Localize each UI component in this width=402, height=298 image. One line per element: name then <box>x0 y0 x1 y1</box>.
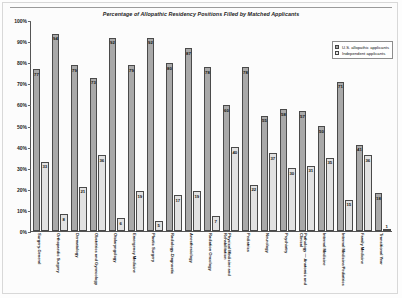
bar-value-label: 78 <box>205 70 210 75</box>
bar-value-label: 33 <box>42 164 47 169</box>
y-tick-label: 40% <box>17 145 27 151</box>
bar-independent: 1 <box>383 229 391 231</box>
bar-us-allopathic: 58 <box>280 109 288 231</box>
bar-us-allopathic: 60 <box>223 105 231 231</box>
y-tick-label: 50% <box>17 124 27 130</box>
y-tick-label: 20% <box>17 187 27 193</box>
bar-us-allopathic: 78 <box>204 67 212 231</box>
category-label: Internal Medicine <box>321 233 325 295</box>
chart-page: Percentage of Allopathic Residency Posit… <box>0 0 402 298</box>
category-label: Neurology <box>264 233 268 295</box>
bar-independent: 22 <box>250 185 258 231</box>
bar-us-allopathic: 94 <box>52 34 60 231</box>
bar-value-label: 60 <box>224 108 229 113</box>
bar-group: 7921 <box>69 21 88 231</box>
bar-group: 7733 <box>31 21 50 231</box>
category-label: Dermatology <box>74 233 78 295</box>
bar-value-label: 87 <box>186 51 191 56</box>
bar-value-label: 57 <box>300 114 305 119</box>
bar-group: 6040 <box>221 21 240 231</box>
legend-label-independent: Independent applicants <box>342 51 385 56</box>
bar-value-label: 36 <box>365 158 370 163</box>
category-label: Radiology-Diagnostic <box>169 233 173 295</box>
bar-value-label: 7 <box>215 219 217 224</box>
bar-value-label: 55 <box>262 118 267 123</box>
y-tick-label: 80% <box>17 60 27 66</box>
category-label: Plastic Surgery <box>150 233 154 295</box>
category-label: Physical Medicine and Rehabilitation <box>222 233 231 295</box>
bar-value-label: 50 <box>319 129 324 134</box>
bar-value-label: 19 <box>194 194 199 199</box>
bar-group: 8719 <box>183 21 202 231</box>
y-tick-label: 10% <box>17 208 27 214</box>
bar-value-label: 19 <box>137 194 142 199</box>
bar-value-label: 77 <box>34 72 39 77</box>
y-tick-label: 30% <box>17 166 27 172</box>
bar-us-allopathic: 77 <box>33 69 41 231</box>
category-label: Psychiatry <box>283 233 287 295</box>
bar-us-allopathic: 71 <box>337 82 345 231</box>
bar-independent: 5 <box>155 221 163 232</box>
bar-us-allopathic: 79 <box>71 65 79 231</box>
y-tick-label: 60% <box>17 102 27 108</box>
bar-us-allopathic: 73 <box>90 78 98 231</box>
category-label: Obstetrics and Gynecology <box>93 233 97 295</box>
bar-independent: 36 <box>98 155 106 231</box>
bar-independent: 6 <box>117 218 125 231</box>
bar-independent: 17 <box>174 195 182 231</box>
bar-us-allopathic: 57 <box>299 111 307 231</box>
legend-entry-independent: Independent applicants <box>335 50 389 56</box>
bar-value-label: 21 <box>80 189 85 194</box>
bar-group: 7336 <box>88 21 107 231</box>
bar-us-allopathic: 87 <box>185 48 193 231</box>
bar-us-allopathic: 78 <box>242 67 250 231</box>
bar-us-allopathic: 18 <box>375 193 383 231</box>
ghost-header-text <box>0 0 402 6</box>
y-tick-label: 90% <box>17 39 27 45</box>
chart-legend: U.S. allopathic applicants Independent a… <box>332 41 393 59</box>
bar-us-allopathic: 41 <box>356 145 364 231</box>
category-label-group: Surgery-GeneralOrthopaedic SurgeryDermat… <box>31 233 393 297</box>
legend-label-us-allopathic: U.S. allopathic applicants <box>342 45 389 50</box>
bar-group: 926 <box>107 21 126 231</box>
x-axis <box>30 231 392 232</box>
category-label: Radiation Oncology <box>207 233 211 295</box>
bar-independent: 19 <box>193 191 201 231</box>
bar-value-label: 78 <box>243 70 248 75</box>
bar-independent: 8 <box>60 214 68 231</box>
bar-independent: 30 <box>288 168 296 231</box>
bar-independent: 7 <box>212 216 220 231</box>
bar-value-label: 6 <box>120 221 122 226</box>
bar-independent: 21 <box>79 187 87 231</box>
bar-value-label: 58 <box>281 112 286 117</box>
category-label: Otolaryngology <box>112 233 116 295</box>
bar-value-label: 22 <box>251 187 256 192</box>
bar-us-allopathic: 79 <box>128 65 136 231</box>
bar-value-label: 5 <box>158 223 160 228</box>
bar-us-allopathic: 55 <box>261 116 269 232</box>
category-label: Surgery-General <box>36 233 40 295</box>
category-label: Anesthesiology <box>188 233 192 295</box>
bar-value-label: 41 <box>357 147 362 152</box>
category-label: Internal Medicine/Pediatrics <box>340 233 344 295</box>
bar-group: 948 <box>50 21 69 231</box>
bar-value-label: 30 <box>289 171 294 176</box>
bar-group: 5537 <box>259 21 278 231</box>
bar-independent: 19 <box>136 191 144 231</box>
bar-group: 7822 <box>240 21 259 231</box>
bar-us-allopathic: 80 <box>166 63 174 231</box>
legend-swatch-independent <box>335 51 339 55</box>
bar-value-label: 73 <box>91 80 96 85</box>
category-label: Orthopaedic Surgery <box>55 233 59 295</box>
bar-value-label: 17 <box>175 198 180 203</box>
bar-value-label: 37 <box>270 156 275 161</box>
bar-value-label: 92 <box>148 40 153 45</box>
category-label: Emergency Medicine <box>131 233 135 295</box>
bar-value-label: 18 <box>376 196 381 201</box>
category-label: Pediatrics <box>245 233 249 295</box>
bar-group: 8017 <box>164 21 183 231</box>
bar-independent: 15 <box>345 200 353 232</box>
category-label: Family Medicine <box>359 233 363 295</box>
bar-group: 787 <box>202 21 221 231</box>
bar-value-label: 36 <box>99 158 104 163</box>
